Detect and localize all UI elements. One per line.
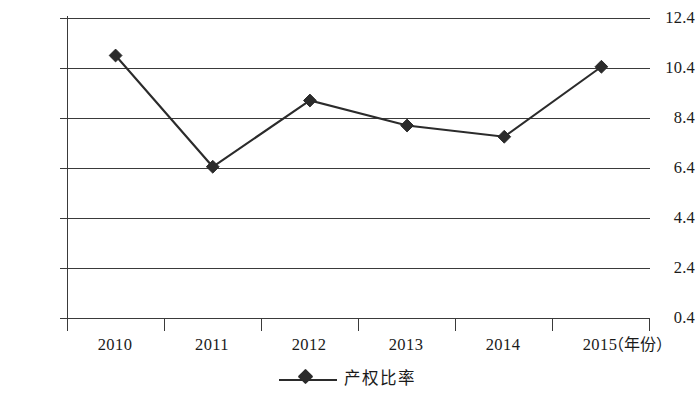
series-markers — [109, 49, 608, 173]
series-layer — [0, 0, 695, 400]
series-line-产权比率 — [116, 56, 602, 167]
legend-label: 产权比率 — [344, 371, 416, 388]
legend-marker — [279, 371, 337, 387]
diamond-marker-icon — [298, 369, 314, 385]
line-chart: 12.4 10.4 8.4 6.4 4.4 2.4 0.4 2010 2011 … — [0, 0, 695, 400]
legend: 产权比率 — [0, 371, 695, 388]
data-point-2013 — [401, 119, 414, 132]
data-point-2012 — [304, 94, 317, 107]
